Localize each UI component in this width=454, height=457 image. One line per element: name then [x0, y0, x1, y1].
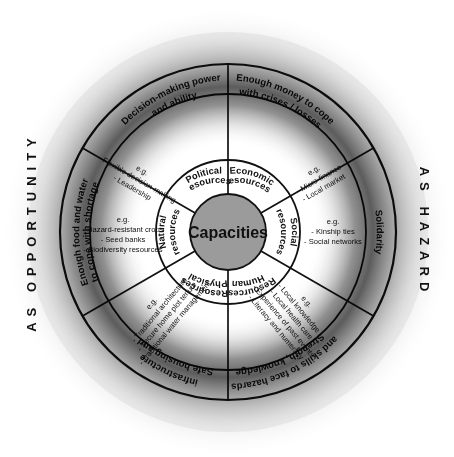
- capacities-diagram: Capacities Environment Environment AS OP…: [0, 0, 454, 457]
